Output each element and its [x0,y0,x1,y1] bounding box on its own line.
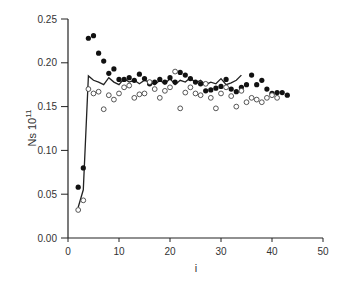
x-tick-label: 30 [215,246,227,257]
x-tick-label: 40 [266,246,278,257]
open-point [127,83,132,88]
open-point [168,85,173,90]
filled-point [96,51,101,56]
filled-point [229,86,234,91]
open-point [157,95,162,100]
filled-point [249,72,254,77]
filled-point [132,78,137,83]
open-point [193,91,198,96]
filled-point [142,76,147,81]
filled-point [203,88,208,93]
open-point [106,93,111,98]
open-point [244,100,249,105]
open-point [122,85,127,90]
filled-point [213,86,218,91]
x-tick-label: 50 [317,246,329,257]
filled-point [198,81,203,86]
y-tick-label: 0.20 [38,57,58,68]
scatter-chart: 010203040500.000.050.100.150.200.25 i Ns… [0,0,342,287]
open-point [178,106,183,111]
open-point [112,97,117,102]
open-point [239,88,244,93]
open-point [275,95,280,100]
open-point [81,198,86,203]
open-point [188,85,193,90]
filled-point [173,79,178,84]
svg-text:Ns 1011: Ns 1011 [24,109,38,147]
axes: 010203040500.000.050.100.150.200.25 [38,14,329,258]
open-point [224,85,229,90]
filled-point [178,70,183,75]
filled-point [106,71,111,76]
open-point [147,80,152,85]
series-line [78,75,241,207]
filled-point [208,87,213,92]
open-point [214,106,219,111]
open-point [265,95,270,100]
open-point [132,95,137,100]
filled-point [218,84,223,89]
x-tick-label: 0 [65,246,71,257]
filled-point [116,77,121,82]
filled-point [244,82,249,87]
filled-point [188,76,193,81]
x-tick-label: 20 [164,246,176,257]
open-point [203,81,208,86]
open-point [173,69,178,74]
filled-point [137,72,142,77]
y-tick-label: 0.10 [38,145,58,156]
filled-point [183,72,188,77]
y-tick-label: 0.15 [38,101,58,112]
y-tick-label: 0.25 [38,14,58,25]
open-point [208,95,213,100]
x-tick-label: 10 [113,246,125,257]
filled-point [157,77,162,82]
filled-point [254,82,259,87]
y-tick-label: 0.00 [38,233,58,244]
open-point [142,91,147,96]
x-axis-label: i [195,262,197,274]
filled-point [127,75,132,80]
open-point [254,97,259,102]
open-point [137,92,142,97]
filled-point [193,79,198,84]
open-point [270,93,275,98]
filled-point [162,79,167,84]
filled-point [101,58,106,63]
filled-point [81,165,86,170]
filled-point [111,66,116,71]
open-point [91,91,96,96]
filled-point [264,86,269,91]
open-point [249,95,254,100]
plot-area [76,33,290,212]
filled-point [152,79,157,84]
filled-point [285,93,290,98]
filled-point [76,185,81,190]
y-tick-label: 0.05 [38,189,58,200]
filled-point [91,33,96,38]
open-point [183,90,188,95]
y-axis-label: Ns 1011 [24,109,38,147]
open-point [163,88,168,93]
open-point [76,208,81,213]
open-point [152,87,157,92]
filled-point [259,78,264,83]
open-point [198,93,203,98]
open-point [229,94,234,99]
filled-point [280,90,285,95]
open-point [259,100,264,105]
filled-point [275,90,280,95]
filled-point [167,75,172,80]
open-point [234,104,239,109]
open-point [101,107,106,112]
open-point [96,89,101,94]
filled-point [122,77,127,82]
filled-point [86,36,91,41]
filled-point [234,89,239,94]
open-point [86,87,91,92]
filled-point [224,77,229,82]
open-point [219,91,224,96]
open-point [117,91,122,96]
